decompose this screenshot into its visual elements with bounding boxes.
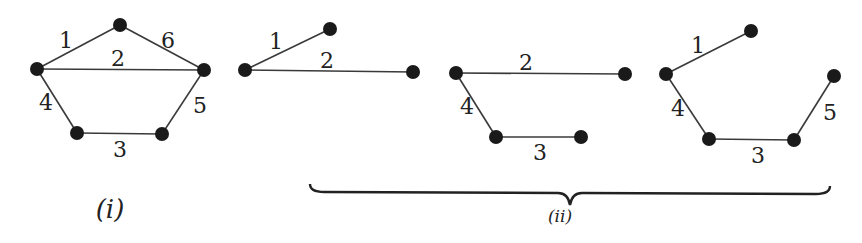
edge-3 [709, 139, 794, 140]
vertex-node [489, 130, 503, 144]
edge-weight-label: 1 [59, 28, 73, 53]
edge-1 [245, 29, 330, 70]
vertex-node [574, 130, 588, 144]
grouping-brace [310, 184, 830, 205]
edge-weight-label: 5 [823, 100, 837, 125]
vertex-node [406, 65, 420, 79]
vertex-node [155, 127, 169, 141]
edge-3 [77, 133, 162, 134]
vertex-node [659, 67, 673, 81]
vertex-node [787, 133, 801, 147]
graph-diagram: 123456 12 234 1345 (i) (ii) [0, 0, 862, 243]
vertex-node [827, 69, 841, 83]
edge-weight-label: 2 [519, 50, 533, 75]
edge-weight-label: 3 [751, 143, 765, 168]
edge-weight-label: 5 [193, 93, 207, 118]
edge-weight-label: 6 [161, 28, 175, 53]
edge-weight-label: 4 [671, 96, 685, 121]
graph-ii-a: 12 [238, 22, 420, 79]
edge-weight-label: 4 [460, 94, 474, 119]
vertex-node [113, 18, 127, 32]
vertex-node [30, 62, 44, 76]
vertex-node [618, 67, 632, 81]
edge-1 [37, 25, 120, 69]
vertex-node [197, 63, 211, 77]
vertex-node [449, 66, 463, 80]
edge-weight-label: 2 [111, 46, 125, 71]
caption-i: (i) [96, 194, 125, 224]
vertex-node [744, 24, 758, 38]
vertex-node [323, 22, 337, 36]
edge-weight-label: 1 [269, 29, 283, 54]
edge-weight-label: 2 [320, 48, 334, 73]
caption-ii: (ii) [548, 206, 572, 226]
edge-weight-label: 1 [691, 33, 705, 58]
edge-weight-label: 4 [39, 90, 53, 115]
edge-weight-label: 3 [113, 137, 127, 162]
graph-i: 123456 [30, 18, 211, 162]
vertex-node [238, 63, 252, 77]
graph-ii-b: 234 [449, 50, 632, 165]
edge-1 [666, 31, 751, 74]
graph-ii-c: 1345 [659, 24, 841, 168]
edge-weight-label: 3 [533, 140, 547, 165]
vertex-node [702, 132, 716, 146]
edge-2 [456, 73, 625, 74]
vertex-node [70, 126, 84, 140]
